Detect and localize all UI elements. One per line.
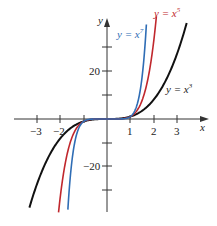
- y-axis: [102, 18, 112, 212]
- x-tick-label: 3: [174, 125, 180, 137]
- y-tick-label: 20: [89, 65, 101, 77]
- y-tick-label: −20: [83, 160, 101, 172]
- label-x5: y = x5: [153, 6, 181, 19]
- curve-x3: [29, 23, 186, 208]
- power-functions-chart: −3 −2 1 2 3 20 −20 y x y = x7 y = x5 y =…: [0, 0, 217, 226]
- x-tick-label: −3: [30, 125, 42, 137]
- label-x7: y = x7: [116, 27, 144, 40]
- chart-svg: −3 −2 1 2 3 20 −20 y x y = x7 y = x5 y =…: [0, 0, 217, 226]
- x-tick-label: −2: [53, 125, 65, 137]
- x-tick-label: 1: [127, 125, 133, 137]
- x-axis-label: x: [199, 121, 205, 133]
- x-tick-label: 2: [151, 125, 157, 137]
- y-axis-arrow-icon: [104, 18, 110, 27]
- y-axis-label: y: [97, 14, 103, 26]
- label-x3: y = x3: [165, 82, 193, 95]
